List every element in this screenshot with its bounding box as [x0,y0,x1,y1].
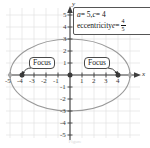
x-axis-label: x [142,71,145,78]
ytick-label-4: 4 [63,24,67,31]
ytick-label-5: 5 [63,12,67,19]
annotation-box: a = 5, c = 4 eccentricity e = 45 [73,7,150,35]
xtick-label-4: 4 [116,78,120,85]
annotation-line-1: a = 5, c = 4 [77,10,149,19]
annotation-line-2: eccentricity e = 45 [77,19,149,33]
xtick-label--1: -1 [53,78,59,85]
eccentricity-word: eccentricity [77,21,112,30]
callout-focus-left: Focus [29,57,55,69]
eccentricity-fraction: 45 [121,18,126,32]
ytick-label-2: 2 [63,48,67,55]
param-c-value: = 4 [96,10,106,19]
fraction-denominator: 5 [121,25,126,32]
ytick-label-1: 1 [63,60,67,67]
vertex-right-point [128,73,132,77]
eccentricity-equals: = [115,21,119,30]
xtick-label--2: -2 [41,78,47,85]
ellipse-figure: -5 -4 -3 -2 -1 1 2 3 4 5 4 3 2 1 -1 -2 -… [0,0,150,148]
ytick-label--3: -3 [60,108,66,115]
ytick-label--4: -4 [60,120,66,127]
xtick-label-2: 2 [92,78,96,85]
figure-caption: Figure [0,139,150,144]
ytick-label--2: -2 [60,96,66,103]
param-a-value: = 5, [81,10,93,19]
left-callout-leader [23,68,31,73]
xtick-label-3: 3 [104,78,108,85]
xtick-label--4: -4 [17,78,23,85]
xtick-label--3: -3 [29,78,35,85]
right-callout-leader [108,68,117,73]
xtick-label-1: 1 [80,78,84,85]
callout-focus-right: Focus [84,57,110,69]
ytick-label-3: 3 [63,36,67,43]
center-point [68,73,73,78]
ytick-label--5: -5 [60,132,66,139]
x-axis-arrow [134,72,141,78]
ytick-label--1: -1 [60,84,66,91]
xtick-label--5: -5 [5,78,11,85]
